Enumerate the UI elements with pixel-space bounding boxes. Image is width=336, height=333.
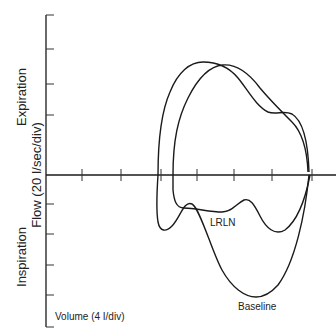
baseline-loop-curve [157, 62, 309, 297]
lrln-annotation: LRLN [210, 217, 236, 228]
y-axis-ticks [46, 15, 54, 327]
lrln-loop-curve [173, 65, 310, 232]
expiration-label: Expiration [14, 68, 29, 126]
volume-axis-label: Volume (4 I/div) [55, 311, 124, 322]
inspiration-label: Inspiration [14, 227, 29, 287]
flow-volume-chart: Expiration Inspiration Flow (20 I/sec/di… [0, 0, 336, 333]
baseline-annotation: Baseline [238, 301, 277, 312]
flow-axis-label: Flow (20 I/sec/div) [29, 122, 44, 227]
